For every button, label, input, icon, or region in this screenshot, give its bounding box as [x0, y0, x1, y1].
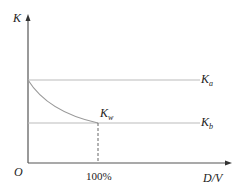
x-axis-label: D/V — [203, 172, 222, 184]
ka-label: Ka — [201, 73, 213, 88]
kb-label: Kb — [201, 116, 213, 131]
y-axis-arrow-icon — [26, 14, 31, 21]
x-axis-arrow-icon — [225, 161, 232, 166]
diagram-canvas — [0, 0, 241, 191]
kw-label: Kw — [100, 107, 113, 122]
y-axis-label: K — [13, 12, 21, 24]
x-tick-100-label: 100% — [86, 171, 112, 182]
origin-label: O — [14, 166, 23, 178]
decay-curve — [28, 80, 98, 123]
